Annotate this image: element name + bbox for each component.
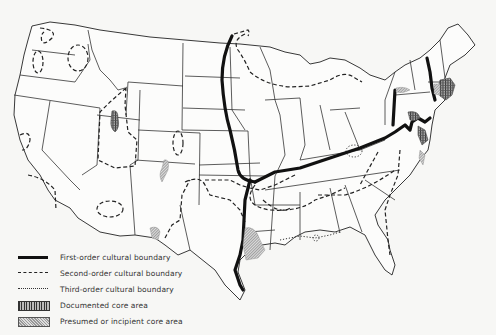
legend-label: Second-order cultural boundary xyxy=(60,269,182,278)
legend-label: Third-order cultural boundary xyxy=(60,285,174,294)
legend-item-documented-core: Documented core area xyxy=(16,298,216,312)
documented-core-new-england xyxy=(438,78,455,100)
presumed-core-new-england-fringe xyxy=(434,84,440,95)
documented-core-mormon xyxy=(111,111,119,132)
third-order-line-icon xyxy=(16,284,50,294)
presumed-core-elpaso xyxy=(150,227,160,240)
legend-label: First-order cultural boundary xyxy=(60,253,170,262)
legend-item-first-order: First-order cultural boundary xyxy=(16,250,216,264)
legend-item-second-order: Second-order cultural boundary xyxy=(16,266,216,280)
legend-label: Presumed or incipient core area xyxy=(60,317,183,326)
presumed-core-pattern-icon xyxy=(16,316,50,326)
legend-label: Documented core area xyxy=(60,301,148,310)
legend-item-third-order: Third-order cultural boundary xyxy=(16,282,216,296)
map-legend: First-order cultural boundary Second-ord… xyxy=(16,250,216,330)
first-order-line-icon xyxy=(16,252,50,262)
legend-item-presumed-core: Presumed or incipient core area xyxy=(16,314,216,328)
second-order-line-icon xyxy=(16,268,50,278)
documented-core-pattern-icon xyxy=(16,300,50,310)
